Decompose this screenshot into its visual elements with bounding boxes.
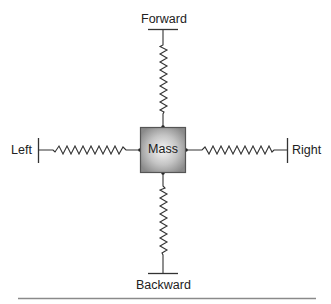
spring-mass-diagram: Mass Forward Backward Left Right: [0, 0, 331, 304]
right-spring: [186, 146, 287, 154]
left-spring: [39, 146, 141, 154]
mass-label: Mass: [140, 143, 186, 156]
backward-label: Backward: [136, 279, 191, 292]
left-label: Left: [11, 144, 32, 157]
forward-spring: [160, 30, 167, 128]
backward-spring: [160, 173, 167, 273]
right-label: Right: [292, 144, 321, 157]
forward-label: Forward: [141, 13, 187, 26]
